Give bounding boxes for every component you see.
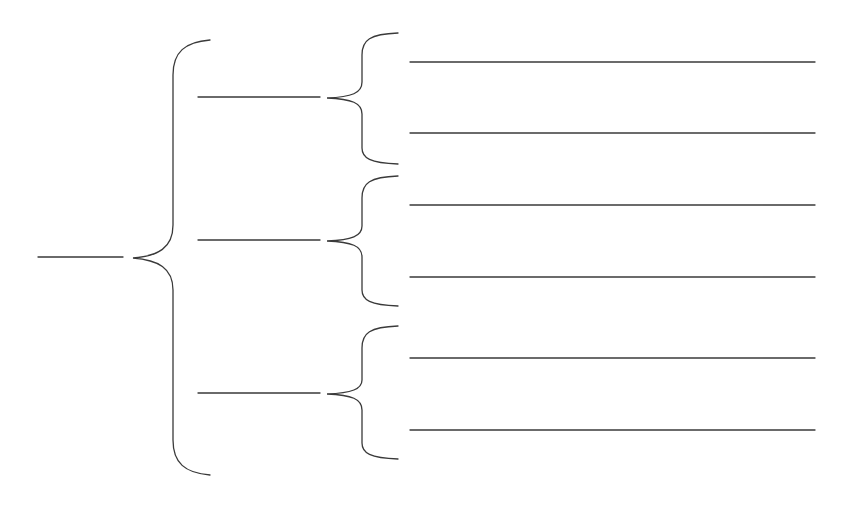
- branch-1-brace: [327, 33, 398, 164]
- branch-2-brace: [327, 176, 398, 306]
- branch-3-brace: [327, 326, 398, 459]
- bracket-diagram: [0, 0, 852, 507]
- root-brace: [133, 40, 210, 475]
